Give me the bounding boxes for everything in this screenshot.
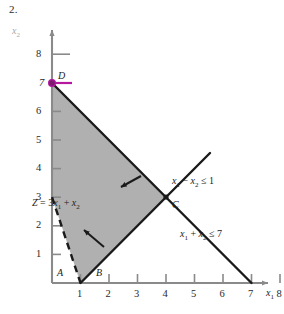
y-tick-label-4: 4 <box>36 163 41 174</box>
highlight-dot-D <box>49 80 56 87</box>
y-tick-label-7: 7 <box>39 78 44 89</box>
objective-plus: + <box>64 197 70 208</box>
vertex-label-D: D <box>58 71 65 81</box>
x-tick-label-7: 7 <box>248 289 253 300</box>
objective-function-label: Z = 3x1 + x2 <box>32 198 80 211</box>
x-tick-label-6: 6 <box>220 289 225 300</box>
y-tick-label-6: 6 <box>36 106 41 117</box>
y-tick-label-5: 5 <box>36 135 41 146</box>
linear-programming-plot <box>0 0 284 314</box>
objective-Z: Z <box>32 197 38 208</box>
constraint-label-x1-plus-x2: x1 + x2 ≤ 7 <box>180 229 222 242</box>
y-tick-label-2: 2 <box>36 220 41 231</box>
figure-container: 2. <box>0 0 284 314</box>
y-tick-label-1: 1 <box>36 249 41 260</box>
objective-equals: = <box>40 197 46 208</box>
x-tick-label-8: 8 <box>277 289 282 300</box>
x-tick-label-3: 3 <box>134 289 139 300</box>
x-tick-label-5: 5 <box>191 289 196 300</box>
x-tick-label-2: 2 <box>106 289 111 300</box>
x-tick-label-4: 4 <box>163 289 168 300</box>
x-axis-label: x1 <box>266 288 274 301</box>
vertex-label-C: C <box>172 200 179 210</box>
y-axis-label: x2 <box>12 26 20 39</box>
vertex-label-A: A <box>57 268 63 278</box>
vertex-label-B: B <box>96 268 102 278</box>
x-tick-label-1: 1 <box>77 289 82 300</box>
constraint-label-x1-minus-x2: x1 − x2 ≤ 1 <box>172 176 214 189</box>
vertex-dot-C <box>163 194 168 199</box>
y-tick-label-8: 8 <box>36 49 41 60</box>
